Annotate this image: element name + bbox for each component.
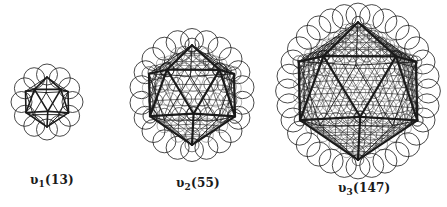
sphere-circle (360, 5, 384, 29)
label-count: (55) (191, 176, 220, 190)
label-v2: υ2(55) (176, 176, 220, 192)
icosahedron-edge (358, 117, 360, 160)
label-v3: υ3(147) (338, 181, 390, 197)
icosahedron-edge (48, 111, 69, 112)
icosahedron-edge (234, 74, 235, 116)
icosahedron-v2 (130, 29, 254, 162)
icosahedron-edge (35, 77, 48, 89)
icosahedron-v1 (11, 64, 83, 140)
sphere-circle (405, 121, 429, 145)
sphere-circle (296, 133, 320, 157)
label-v1: υ1(13) (30, 173, 74, 189)
icosahedron-edge (47, 111, 48, 127)
label-symbol: υ (30, 173, 39, 187)
icosahedron-edge (33, 115, 47, 127)
label-count: (147) (353, 181, 390, 195)
label-symbol: υ (176, 176, 185, 190)
icosahedron-edge (26, 91, 27, 112)
sphere-circle (227, 106, 250, 129)
icosahedron-edge (192, 114, 194, 145)
icosahedron-v3 (276, 3, 441, 179)
icosahedron-edge (416, 62, 417, 121)
icosahedron-edge (46, 92, 68, 93)
icosahedron-edge (299, 62, 300, 121)
label-count: (13) (45, 173, 74, 187)
icosahedron-edge (26, 111, 48, 112)
icosahedron-edge (46, 77, 47, 93)
sphere-circle (332, 5, 356, 29)
icosahedron-edge (68, 92, 69, 113)
icosahedron-edge (149, 74, 150, 116)
label-symbol: υ (338, 181, 347, 195)
sphere-circle (396, 25, 420, 49)
